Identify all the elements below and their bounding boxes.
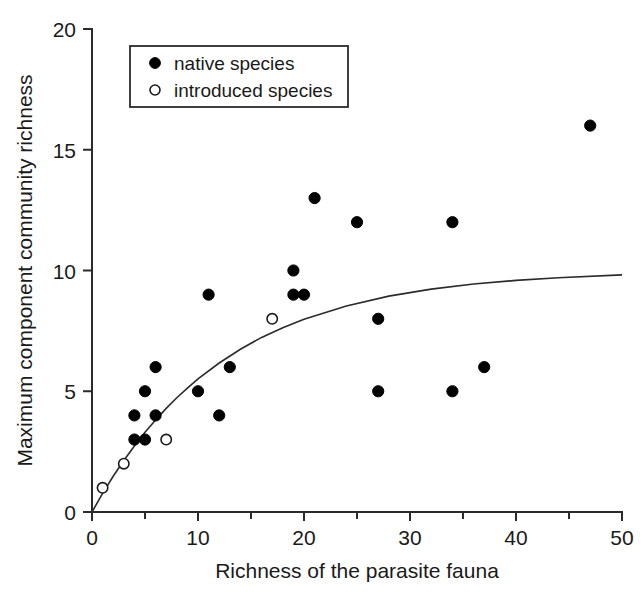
data-point-native (129, 434, 140, 445)
data-point-native (192, 386, 203, 397)
legend-label-native: native species (174, 53, 294, 74)
y-tick-label: 15 (53, 139, 76, 162)
data-point-native (479, 362, 490, 373)
y-tick-label: 10 (53, 260, 76, 283)
x-tick-label: 20 (292, 526, 315, 549)
data-point-native (373, 386, 384, 397)
data-point-native (129, 410, 140, 421)
data-point-native (351, 217, 362, 228)
x-tick-label: 10 (186, 526, 209, 549)
data-point-native (585, 120, 596, 131)
y-tick-group: 05101520 (53, 18, 92, 524)
y-tick-label: 5 (64, 380, 76, 403)
scatter-plot-figure: 0102030405005101520Richness of the paras… (0, 0, 643, 597)
data-point-native (214, 410, 225, 421)
x-tick-label: 50 (610, 526, 633, 549)
x-tick-label: 0 (86, 526, 98, 549)
plot-canvas: 0102030405005101520Richness of the paras… (0, 0, 643, 597)
y-axis-title: Maximum component community richness (13, 74, 36, 466)
data-point-introduced (97, 483, 107, 493)
data-point-introduced (161, 434, 171, 444)
data-point-native (309, 192, 320, 203)
x-axis-title: Richness of the parasite fauna (215, 559, 499, 582)
data-point-native (447, 386, 458, 397)
legend: native speciesintroduced species (130, 46, 348, 107)
x-tick-label: 30 (398, 526, 421, 549)
fit-curve (92, 275, 622, 512)
data-point-native (150, 362, 161, 373)
data-point-native (447, 217, 458, 228)
legend-marker-native (150, 58, 161, 69)
data-point-native (224, 362, 235, 373)
data-point-native (139, 386, 150, 397)
data-point-introduced (119, 459, 129, 469)
data-point-introduced (267, 314, 277, 324)
x-tick-group: 01020304050 (86, 512, 634, 549)
legend-label-introduced: introduced species (174, 80, 332, 101)
y-tick-label: 20 (53, 18, 76, 41)
legend-marker-introduced (150, 85, 160, 95)
series-introduced-species (97, 314, 277, 493)
data-point-native (288, 265, 299, 276)
data-point-native (139, 434, 150, 445)
y-tick-label: 0 (64, 501, 76, 524)
x-tick-label: 40 (504, 526, 527, 549)
data-point-native (298, 289, 309, 300)
data-point-native (288, 289, 299, 300)
data-point-native (373, 313, 384, 324)
series-native-species (129, 120, 596, 445)
data-point-native (150, 410, 161, 421)
data-point-native (203, 289, 214, 300)
